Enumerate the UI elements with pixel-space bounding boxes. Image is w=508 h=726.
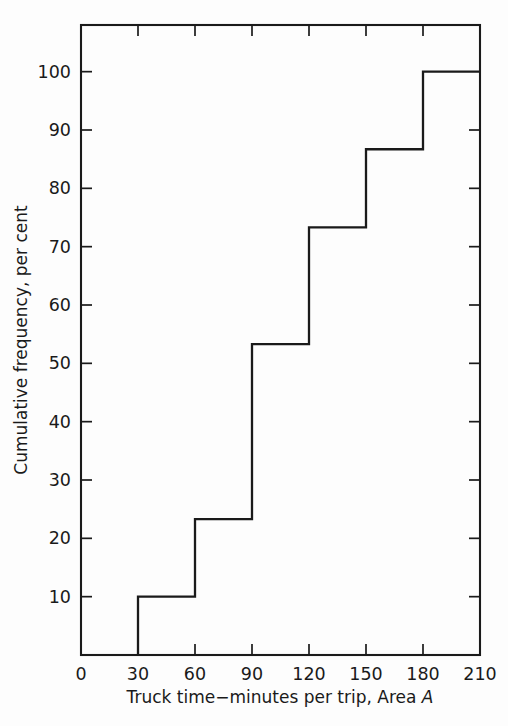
y-tick-label: 10 — [49, 587, 71, 607]
y-axis-title: Cumulative frequency, per cent — [11, 205, 31, 475]
cumulative-step-line — [138, 72, 480, 655]
x-axis-title-text: Truck time−minutes per trip, Area — [126, 687, 422, 707]
x-axis-ticks-top — [138, 25, 423, 36]
x-axis-title: Truck time−minutes per trip, Area A — [126, 687, 434, 707]
chart-figure: 0306090120150180210 10203040506070809010… — [0, 0, 508, 726]
x-tick-label: 30 — [127, 664, 149, 684]
y-tick-label: 50 — [49, 353, 71, 373]
x-tick-label: 150 — [349, 664, 382, 684]
y-axis-ticks-left — [81, 72, 92, 597]
y-tick-label: 20 — [49, 528, 71, 548]
x-tick-label: 210 — [463, 664, 496, 684]
y-axis-tick-labels: 102030405060708090100 — [38, 62, 71, 607]
y-tick-label: 60 — [49, 295, 71, 315]
y-tick-label: 70 — [49, 237, 71, 257]
x-axis-title-area-symbol: A — [421, 687, 434, 707]
x-axis-tick-labels: 0306090120150180210 — [75, 664, 496, 684]
x-tick-label: 90 — [241, 664, 263, 684]
y-tick-label: 40 — [49, 412, 71, 432]
plot-frame-box — [81, 25, 480, 655]
y-tick-label: 30 — [49, 470, 71, 490]
x-tick-label: 60 — [184, 664, 206, 684]
x-tick-label: 120 — [292, 664, 325, 684]
cumulative-frequency-chart: 0306090120150180210 10203040506070809010… — [0, 0, 508, 726]
y-tick-label: 90 — [49, 120, 71, 140]
y-tick-label: 100 — [38, 62, 71, 82]
x-tick-label: 180 — [406, 664, 439, 684]
y-axis-ticks-right — [469, 130, 480, 597]
x-tick-label: 0 — [75, 664, 86, 684]
x-axis-ticks-bottom — [138, 644, 423, 655]
y-tick-label: 80 — [49, 178, 71, 198]
